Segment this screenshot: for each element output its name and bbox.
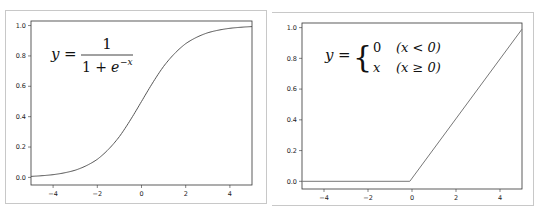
equation-denominator: 1 + — [82, 59, 107, 75]
y-tick-label: 0.4 — [287, 116, 297, 124]
y-tick-label: 0.6 — [287, 85, 297, 93]
left-brace: { — [353, 39, 372, 74]
x-tick-label: 4 — [228, 190, 232, 198]
equation-e: e — [111, 59, 119, 75]
case2-condition: (x ≥ 0) — [396, 60, 441, 75]
step-linear-figure: 0.00.20.40.60.81.0−4−2024y={0(x < 0)x(x … — [272, 12, 534, 206]
y-tick-label: 0.2 — [287, 147, 297, 155]
x-tick-label: −4 — [319, 194, 329, 202]
x-tick-label: 0 — [410, 194, 414, 202]
y-tick-label: 0.6 — [16, 82, 26, 90]
x-tick-label: 0 — [139, 190, 143, 198]
sigmoid-figure: 0.00.20.40.60.81.0−4−2024y=11 + e−x — [5, 10, 267, 204]
y-tick-label: 0.2 — [16, 143, 26, 151]
y-tick-label: 0.0 — [16, 174, 26, 182]
x-tick-label: 2 — [454, 194, 458, 202]
x-tick-label: −4 — [48, 190, 58, 198]
x-tick-label: −2 — [363, 194, 373, 202]
y-tick-label: 0.4 — [16, 113, 26, 121]
case1-value: 0 — [373, 40, 381, 55]
y-tick-label: 0.0 — [287, 178, 297, 186]
piecewise-equation: y={0(x < 0)x(x ≥ 0) — [324, 39, 441, 75]
x-tick-label: 4 — [498, 194, 502, 202]
x-tick-label: 2 — [184, 190, 188, 198]
y-tick-label: 1.0 — [287, 24, 297, 32]
equation-numerator: 1 — [102, 35, 112, 53]
sigmoid-equation: y=11 + e−x — [50, 35, 133, 75]
x-tick-label: −2 — [93, 190, 103, 198]
equation-equals: = — [338, 46, 351, 64]
equation-exponent: −x — [120, 57, 133, 67]
case2-value: x — [373, 60, 381, 75]
y-tick-label: 0.8 — [287, 55, 297, 63]
y-tick-label: 1.0 — [16, 22, 26, 30]
equation-lhs: y — [324, 46, 334, 64]
sigmoid-chart: 0.00.20.40.60.81.0−4−2024y=11 + e−x — [6, 11, 268, 205]
equation-lhs: y — [50, 45, 60, 63]
equation-equals: = — [64, 45, 77, 63]
case1-condition: (x < 0) — [396, 40, 441, 55]
piecewise-chart: 0.00.20.40.60.81.0−4−2024y={0(x < 0)x(x … — [272, 13, 534, 207]
y-tick-label: 0.8 — [16, 52, 26, 60]
